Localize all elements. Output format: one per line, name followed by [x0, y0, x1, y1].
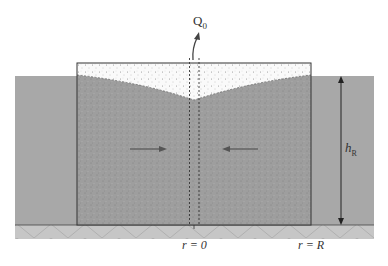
discharge-subscript: 0	[202, 21, 207, 31]
discharge-label: Q0	[193, 13, 207, 31]
diagram-svg	[0, 0, 388, 266]
well-drawdown-diagram: Q0 hR r = 0 r = R	[0, 0, 388, 266]
r-center-label: r = 0	[182, 238, 207, 253]
ground-right	[311, 76, 374, 225]
ground-left	[15, 76, 77, 225]
discharge-symbol: Q	[193, 13, 202, 28]
discharge-arrow	[193, 38, 197, 60]
discharge-arrowhead	[194, 32, 200, 40]
height-subscript: R	[352, 149, 357, 158]
base-layer	[15, 225, 374, 239]
height-label: hR	[345, 140, 357, 158]
r-edge-label: r = R	[298, 238, 324, 253]
